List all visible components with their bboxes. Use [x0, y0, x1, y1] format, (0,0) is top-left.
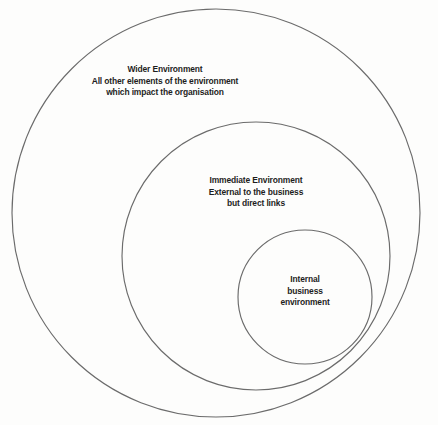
- label-internal-business-environment: Internal business environment: [243, 274, 368, 309]
- concentric-environment-diagram: Wider Environment All other elements of …: [0, 0, 438, 425]
- label-internal-business-environment-line-1: Internal: [243, 274, 368, 286]
- label-immediate-environment-line-3: but direct links: [131, 198, 380, 210]
- label-immediate-environment: Immediate Environment External to the bu…: [131, 175, 380, 210]
- label-wider-environment-line-3: which impact the organisation: [12, 87, 319, 99]
- label-wider-environment-line-2: All other elements of the environment: [12, 76, 319, 88]
- label-wider-environment-line-1: Wider Environment: [12, 64, 319, 76]
- label-internal-business-environment-line-2: business: [243, 286, 368, 298]
- circle-immediate-environment: [122, 122, 390, 390]
- label-immediate-environment-line-2: External to the business: [131, 187, 380, 199]
- label-immediate-environment-line-1: Immediate Environment: [131, 175, 380, 187]
- label-internal-business-environment-line-3: environment: [243, 297, 368, 309]
- label-wider-environment: Wider Environment All other elements of …: [12, 64, 319, 99]
